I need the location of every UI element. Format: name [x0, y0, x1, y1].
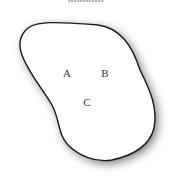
point-label-c: C: [83, 97, 90, 108]
closed-region-diagram: [0, 0, 172, 176]
point-label-b: B: [101, 68, 108, 79]
point-label-a: A: [63, 68, 71, 79]
region-outline: [20, 23, 155, 161]
